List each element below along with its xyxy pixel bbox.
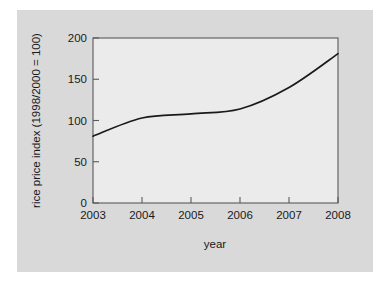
x-tick-label-2003: 2003 xyxy=(80,209,106,221)
y-tick-label-50: 50 xyxy=(74,156,87,168)
figure-canvas: 200 150 100 50 0 2003 2004 2005 2006 200… xyxy=(0,0,390,282)
y-tick-label-100: 100 xyxy=(68,115,87,127)
plot-area-background xyxy=(93,38,338,203)
x-tick-label-2007: 2007 xyxy=(276,209,302,221)
y-tick-label-150: 150 xyxy=(68,73,87,85)
x-tick-label-2005: 2005 xyxy=(178,209,204,221)
x-axis-title: year xyxy=(204,238,227,250)
x-tick-label-2004: 2004 xyxy=(129,209,155,221)
y-tick-label-200: 200 xyxy=(68,32,87,44)
x-tick-label-2008: 2008 xyxy=(325,209,351,221)
y-tick-label-0: 0 xyxy=(81,197,87,209)
x-tick-label-2006: 2006 xyxy=(227,209,253,221)
line-chart: 200 150 100 50 0 2003 2004 2005 2006 200… xyxy=(0,0,390,282)
y-axis-title: rice price index (1998/2000 = 100) xyxy=(30,33,42,208)
